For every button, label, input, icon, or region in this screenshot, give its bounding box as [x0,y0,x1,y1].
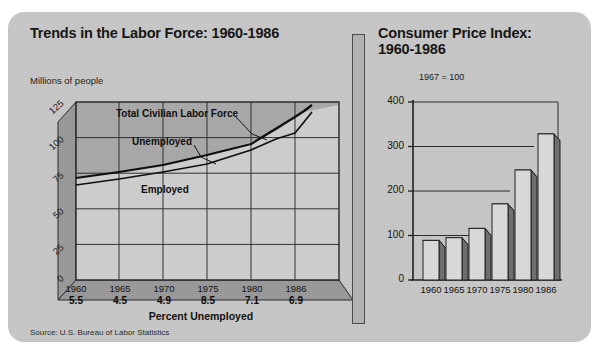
cpi-bar-1986 [538,134,560,280]
cpi-ytick-400: 400 [376,95,404,106]
labor-force-chart-panel: Trends in the Labor Force: 1960-1986 Mil… [8,12,353,342]
left-xtick-1965: 1965 [100,283,140,294]
left-xtick-1960: 1960 [56,283,96,294]
left-x-axis-label: Percent Unemployed [116,310,286,322]
left-pct-1975: 8.5 [188,295,228,306]
cpi-ytick-0: 0 [376,273,404,284]
cpi-ytick-300: 300 [376,140,404,151]
left-pct-1986: 6.9 [276,295,316,306]
left-wall-3d [58,102,76,300]
cpi-bar-1970 [469,228,491,280]
cpi-bar-1960 [423,240,445,280]
left-pct-1960: 5.5 [56,295,96,306]
left-xtick-1970: 1970 [144,283,184,294]
series-label-unemployed: Unemployed [132,136,192,147]
cpi-xtick-1986: 1986 [529,284,563,295]
panel-divider-bar [352,34,365,324]
left-xtick-1980: 1980 [232,283,272,294]
cpi-bar-1980 [515,170,537,280]
cpi-ytick-100: 100 [376,229,404,240]
series-label-employed: Employed [141,184,189,195]
left-xtick-1986: 1986 [276,283,316,294]
cpi-bar-1965 [446,238,468,280]
figure-card: Trends in the Labor Force: 1960-1986 Mil… [8,12,591,342]
left-pct-1965: 4.5 [100,295,140,306]
left-xtick-1975: 1975 [188,283,228,294]
left-chart-source: Source: U.S. Bureau of Labor Statistics [30,328,169,337]
cpi-chart-panel: Consumer Price Index: 1960-1986 1967 = 1… [366,12,591,342]
left-pct-1970: 4.9 [144,295,184,306]
cpi-bar-1975 [492,204,514,280]
cpi-ytick-200: 200 [376,184,404,195]
left-pct-1980: 7.1 [232,295,272,306]
series-label-total-civilian-labor-force: Total Civilian Labor Force [116,108,238,119]
